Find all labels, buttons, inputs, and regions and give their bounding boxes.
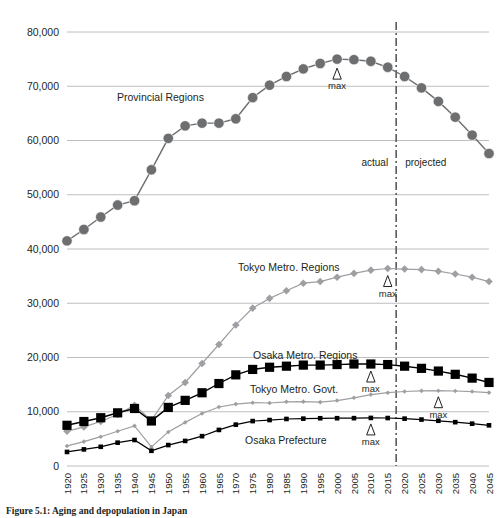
x-axis-tick-label: 1975 [247, 473, 258, 494]
series-label-osaka-metro-regions: Osaka Metro. Regions [253, 349, 357, 361]
max-label: max [328, 80, 346, 91]
x-axis-tick-label: 1920 [62, 473, 73, 494]
max-label: max [429, 409, 447, 420]
data-point-osaka-prefecture [234, 422, 239, 427]
x-axis-tick-label: 2025 [416, 473, 427, 494]
x-axis-tick-label: 1960 [197, 473, 208, 494]
data-point-tokyo-metro-regions [266, 295, 274, 303]
data-point-osaka-metro-regions [417, 364, 426, 373]
data-point-osaka-metro-regions [316, 360, 325, 369]
data-point-osaka-prefecture [470, 421, 475, 426]
data-point-osaka-metro-regions [468, 374, 477, 383]
data-point-provincial-regions [366, 56, 376, 66]
data-point-tokyo-metro-govt [385, 390, 390, 395]
x-axis-tick-label: 2040 [467, 473, 478, 494]
data-point-tokyo-metro-regions [451, 270, 459, 278]
data-point-osaka-prefecture [82, 447, 87, 452]
projected-label: projected [405, 157, 446, 168]
data-point-provincial-regions [433, 96, 443, 106]
data-point-osaka-metro-regions [299, 360, 308, 369]
data-point-tokyo-metro-govt [470, 389, 475, 394]
data-point-provincial-regions [416, 83, 426, 93]
data-point-tokyo-metro-regions [384, 265, 392, 273]
data-point-provincial-regions [383, 62, 393, 72]
population-line-chart: 010,00020,00030,00040,00050,00060,00070,… [0, 0, 497, 500]
data-point-tokyo-metro-govt [352, 395, 357, 400]
data-point-tokyo-metro-govt [436, 388, 441, 393]
max-triangle-icon [333, 68, 341, 79]
data-point-osaka-metro-regions [248, 365, 257, 374]
data-point-osaka-metro-regions [62, 421, 71, 430]
y-axis-tick-label: 40,000 [27, 243, 59, 255]
series-label-osaka-prefecture: Osaka Prefecture [245, 434, 327, 446]
data-point-tokyo-metro-govt [335, 398, 340, 403]
y-axis-tick-label: 10,000 [27, 405, 59, 417]
data-point-osaka-prefecture [250, 419, 255, 424]
data-point-osaka-prefecture [166, 443, 171, 448]
data-point-osaka-metro-regions [96, 413, 105, 422]
x-axis-tick-label: 2005 [349, 473, 360, 494]
y-axis-tick-label: 60,000 [27, 134, 59, 146]
data-point-provincial-regions [247, 92, 257, 102]
data-point-tokyo-metro-govt [318, 400, 323, 405]
data-point-provincial-regions [399, 71, 409, 81]
data-point-provincial-regions [163, 133, 173, 143]
data-point-provincial-regions [79, 224, 89, 234]
data-point-osaka-metro-regions [332, 360, 341, 369]
data-point-provincial-regions [180, 121, 190, 131]
data-point-tokyo-metro-govt [402, 389, 407, 394]
data-point-tokyo-metro-govt [98, 434, 103, 439]
max-label: max [379, 288, 397, 299]
x-axis-tick-label: 1955 [180, 473, 191, 494]
data-point-osaka-metro-regions [130, 404, 139, 413]
y-axis-tick-label: 80,000 [27, 26, 59, 38]
data-point-provincial-regions [129, 196, 139, 206]
data-point-tokyo-metro-regions [401, 265, 409, 273]
y-axis-tick-label: 30,000 [27, 297, 59, 309]
data-point-tokyo-metro-govt [250, 400, 255, 405]
data-point-osaka-prefecture [352, 416, 357, 421]
data-point-provincial-regions [315, 58, 325, 68]
data-point-provincial-regions [214, 118, 224, 128]
x-axis-tick-label: 2000 [332, 473, 343, 494]
data-point-provincial-regions [62, 236, 72, 246]
data-point-provincial-regions [96, 212, 106, 222]
data-point-osaka-prefecture [183, 439, 188, 444]
data-point-tokyo-metro-govt [284, 400, 289, 405]
data-point-tokyo-metro-regions [468, 273, 476, 281]
x-axis-tick-label: 1930 [95, 473, 106, 494]
data-point-osaka-prefecture [98, 444, 103, 449]
data-point-osaka-prefecture [284, 417, 289, 422]
data-point-provincial-regions [231, 114, 241, 124]
data-point-tokyo-metro-regions [367, 266, 375, 274]
data-point-osaka-metro-regions [197, 388, 206, 397]
data-point-provincial-regions [197, 118, 207, 128]
x-axis-tick-label: 1940 [129, 473, 140, 494]
max-triangle-icon [367, 371, 375, 382]
data-point-osaka-prefecture [132, 438, 137, 443]
data-point-osaka-metro-regions [214, 379, 223, 388]
data-point-tokyo-metro-govt [115, 429, 120, 434]
data-point-tokyo-metro-govt [419, 389, 424, 394]
data-point-tokyo-metro-govt [82, 439, 87, 444]
y-axis-tick-label: 70,000 [27, 80, 59, 92]
x-axis-tick-label: 1945 [146, 473, 157, 494]
data-point-osaka-prefecture [65, 450, 70, 455]
data-point-osaka-prefecture [487, 423, 492, 428]
data-point-osaka-prefecture [149, 449, 154, 454]
data-point-osaka-metro-regions [451, 370, 460, 379]
data-point-tokyo-metro-regions [485, 278, 493, 286]
data-point-provincial-regions [112, 200, 122, 210]
x-axis-tick-label: 1925 [78, 473, 89, 494]
x-axis-tick-label: 2030 [433, 473, 444, 494]
data-point-provincial-regions [484, 148, 494, 158]
data-point-tokyo-metro-govt [487, 390, 492, 395]
data-point-osaka-metro-regions [366, 359, 375, 368]
data-point-osaka-prefecture [453, 420, 458, 425]
data-point-tokyo-metro-regions [435, 267, 443, 275]
data-point-osaka-prefecture [385, 416, 390, 421]
data-point-osaka-prefecture [115, 440, 120, 445]
x-axis-tick-label: 2015 [382, 473, 393, 494]
data-point-osaka-prefecture [217, 428, 222, 433]
x-axis-tick-label: 1965 [214, 473, 225, 494]
